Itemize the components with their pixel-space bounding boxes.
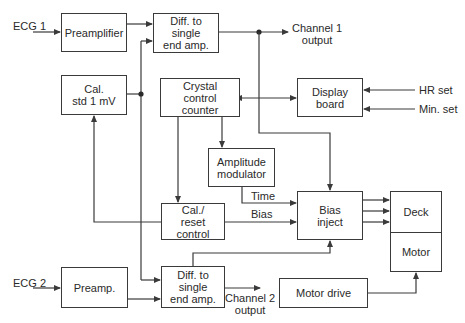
motor-block: Motor xyxy=(390,232,442,272)
crystal-counter-block: Crystal control counter xyxy=(160,78,240,117)
diff-amp-bottom-block: Diff. to single end amp. xyxy=(161,266,225,308)
hr-set-label: HR set xyxy=(419,84,453,96)
bias-label: Bias xyxy=(251,208,272,220)
amplitude-modulator-block: Amplitude modulator xyxy=(208,148,275,187)
preamp-block: Preamp. xyxy=(61,267,128,308)
deck-block: Deck xyxy=(390,191,442,233)
display-board-block: Display board xyxy=(297,78,363,117)
diff-amp-top-block: Diff. to single end amp. xyxy=(153,13,219,53)
cal-std-block: Cal. std 1 mV xyxy=(61,75,127,115)
wire-motordrive-motor xyxy=(368,273,416,293)
motor-drive-block: Motor drive xyxy=(279,278,368,308)
cal-reset-block: Cal./ reset control xyxy=(161,203,225,240)
channel2-output-label: Channel 2 output xyxy=(225,292,275,316)
time-label: Time xyxy=(251,190,275,202)
bias-inject-block: Bias inject xyxy=(297,191,363,240)
ecg1-label: ECG 1 xyxy=(13,20,46,32)
preamplifier-block: Preamplifier xyxy=(61,13,127,52)
ecg2-label: ECG 2 xyxy=(13,277,46,289)
min-set-label: Min. set xyxy=(419,103,458,115)
channel1-output-label: Channel 1 output xyxy=(292,22,342,46)
wire-diff2-bias xyxy=(193,241,330,266)
ecg-recorder-block-diagram: ECG 1 ECG 2 Channel 1 output Channel 2 o… xyxy=(0,0,465,323)
wire-calreset-calstd xyxy=(94,116,161,222)
